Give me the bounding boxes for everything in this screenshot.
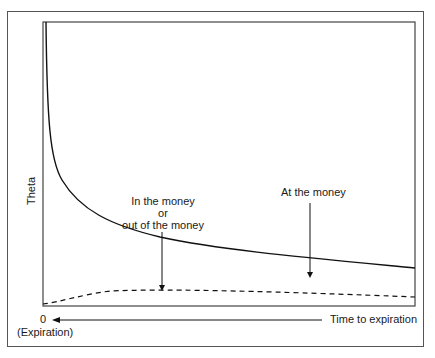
x-axis-label: Time to expiration xyxy=(330,313,417,326)
at-the-money-curve xyxy=(46,22,415,268)
x-origin-label: 0 xyxy=(40,313,46,326)
atm-annotation: At the money xyxy=(281,186,346,199)
plot-area xyxy=(43,22,415,306)
itm-otm-curve xyxy=(43,290,415,304)
x-origin-sublabel: (Expiration) xyxy=(17,326,73,339)
y-axis-label: Theta xyxy=(25,177,38,205)
itm-annotation-line3: out of the money xyxy=(116,219,210,232)
atm-arrowhead-icon xyxy=(307,272,313,278)
time-arrowhead-icon xyxy=(52,317,60,323)
theta-chart xyxy=(0,0,435,358)
